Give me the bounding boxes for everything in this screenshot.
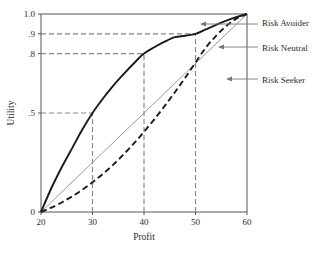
leader-arrowhead-risk-neutral	[218, 44, 224, 49]
series-annotation-labels: Risk AvoiderRisk NeutralRisk Seeker	[262, 18, 309, 85]
data-series-layer	[41, 14, 247, 212]
y-tick-label-p9: .9	[28, 29, 35, 39]
y-tick-label-0: 0	[31, 207, 36, 217]
y-tick-label-p5: .5	[28, 108, 35, 118]
leader-arrowhead-risk-seeker	[226, 76, 232, 81]
annotation-label-risk-seeker: Risk Seeker	[262, 75, 305, 85]
y-tick-label-p8: .8	[28, 49, 35, 59]
annotation-label-risk-avoider: Risk Avoider	[262, 18, 309, 28]
x-tick-label-60: 60	[243, 217, 253, 227]
x-tick-label-40: 40	[140, 217, 150, 227]
reference-guide-lines	[41, 34, 196, 212]
y-axis-title: Utility	[6, 100, 16, 125]
x-tick-label-20: 20	[37, 217, 47, 227]
x-axis-title: Profit	[133, 232, 155, 242]
x-tick-label-30: 30	[88, 217, 98, 227]
leader-arrowhead-risk-avoider	[200, 21, 206, 26]
chart-canvas: 2030405060 0.5.8.91.0 Profit Utility Ris…	[0, 0, 321, 253]
utility-risk-preference-chart: 2030405060 0.5.8.91.0 Profit Utility Ris…	[0, 0, 321, 253]
series-curve-risk-neutral	[41, 14, 247, 212]
y-tick-label-1p0: 1.0	[24, 9, 36, 19]
x-axis-tick-labels: 2030405060	[37, 217, 253, 227]
annotation-leaders	[200, 21, 258, 81]
annotation-label-risk-neutral: Risk Neutral	[262, 43, 308, 53]
x-tick-label-50: 50	[191, 217, 201, 227]
y-axis-tick-labels: 0.5.8.91.0	[24, 9, 36, 217]
